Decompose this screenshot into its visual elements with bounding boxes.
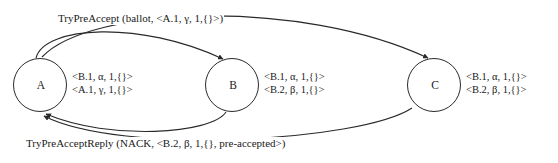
state-entry: <B.1, α, 1,{}> <box>466 71 527 84</box>
state-entry: <A.1, γ, 1,{}> <box>72 84 133 97</box>
edge-a-to-b <box>36 32 223 59</box>
node-a[interactable]: A <box>13 58 67 112</box>
edge-b-to-a <box>46 112 226 132</box>
state-entry: <B.2, β, 1,{}> <box>466 84 527 97</box>
edge-label-try-pre-accept: TryPreAccept (ballot, <A.1, γ, 1,{}>) <box>57 12 224 25</box>
state-entry: <B.1, α, 1,{}> <box>264 71 325 84</box>
state-entry: <B.2, β, 1,{}> <box>264 84 325 97</box>
state-list-c: <B.1, α, 1,{}> <B.2, β, 1,{}> <box>466 71 527 96</box>
node-c-label: C <box>408 59 462 113</box>
node-b-label: B <box>206 59 260 113</box>
node-b[interactable]: B <box>205 58 259 112</box>
state-list-b: <B.1, α, 1,{}> <B.2, β, 1,{}> <box>264 71 325 96</box>
node-c[interactable]: C <box>407 58 461 112</box>
state-entry: <B.1, α, 1,{}> <box>72 71 133 84</box>
edge-label-try-pre-accept-reply: TryPreAcceptReply (NACK, <B.2, β, 1,{}, … <box>24 137 287 150</box>
node-a-label: A <box>14 59 68 113</box>
state-list-a: <B.1, α, 1,{}> <A.1, γ, 1,{}> <box>72 71 133 96</box>
state-transition-diagram: TryPreAccept (ballot, <A.1, γ, 1,{}>) Tr… <box>0 0 558 163</box>
